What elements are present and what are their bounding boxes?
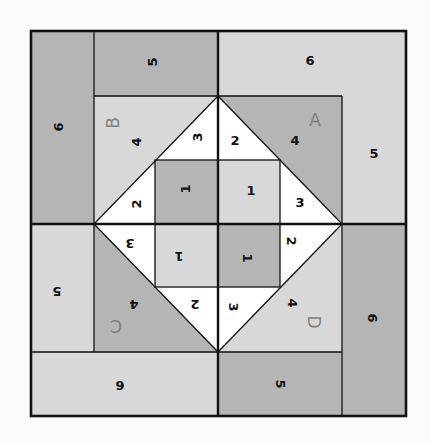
quadrant-b-label-1: 1 <box>178 184 193 193</box>
quadrant-a-label-6: 6 <box>305 53 314 68</box>
quadrant-a-label-4: 4 <box>290 133 299 148</box>
quadrant-a-label-5: 5 <box>369 146 378 161</box>
quadrant-b-label-4: 4 <box>129 137 144 146</box>
quadrant-d-label-3: 3 <box>226 302 241 311</box>
quadrant-c-piece-1 <box>155 224 218 287</box>
quadrant-c-label-1: 1 <box>174 249 183 264</box>
quadrant-c-letter: C <box>110 316 122 336</box>
quadrant-d-label-4: 4 <box>285 298 300 307</box>
quadrant-c-label-5: 5 <box>52 284 61 299</box>
quadrant-c-label-4: 4 <box>129 297 138 312</box>
quadrant-b-label-6: 6 <box>51 122 66 131</box>
quilt-block-diagram: A 6 5 4 2 1 3 B 6 5 4 3 2 1 C 5 6 4 3 2 … <box>0 0 430 444</box>
quadrant-a-label-2: 2 <box>230 133 239 148</box>
quadrant-b-label-3: 3 <box>190 132 205 141</box>
quadrant-d-label-5: 5 <box>273 379 288 388</box>
quadrant-b-label-5: 5 <box>145 57 160 66</box>
quadrant-a-letter: A <box>309 110 321 130</box>
quadrant-d-label-6: 6 <box>365 313 380 322</box>
quadrant-c-label-6: 6 <box>115 378 124 393</box>
quadrant-a-label-1: 1 <box>246 183 255 198</box>
quadrant-b-letter: B <box>103 117 123 129</box>
quadrant-b-label-2: 2 <box>129 199 144 208</box>
quadrant-a-label-3: 3 <box>295 195 304 210</box>
quadrant-d-label-1: 1 <box>240 253 255 262</box>
quadrant-d-label-2: 2 <box>284 236 299 245</box>
quadrant-d-letter: D <box>304 315 324 328</box>
quadrant-c-label-2: 2 <box>190 297 199 312</box>
quadrant-c-label-3: 3 <box>125 236 134 251</box>
